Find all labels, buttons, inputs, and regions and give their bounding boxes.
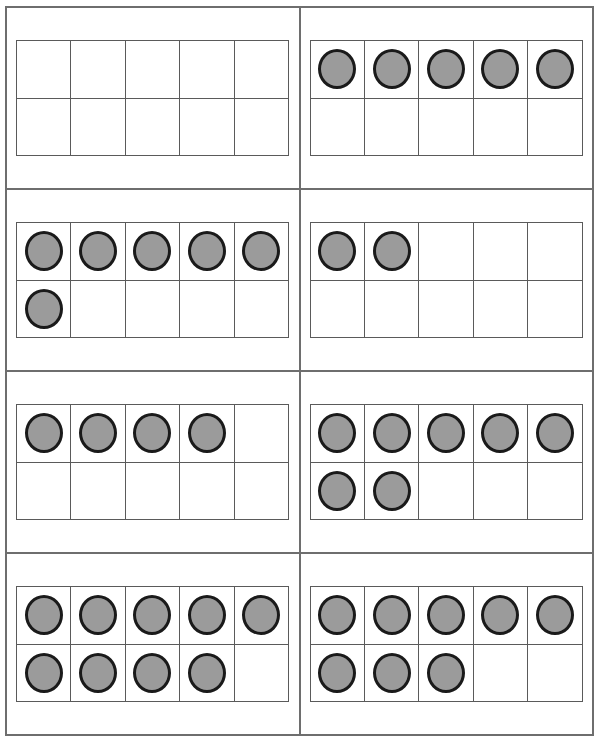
ten-frame-cell-filled[interactable] (126, 587, 180, 645)
ten-frame-panel[interactable] (7, 190, 301, 372)
ten-frame-cell-empty[interactable] (528, 99, 582, 157)
ten-frame-cell-filled[interactable] (126, 645, 180, 703)
counter-circle-icon (373, 471, 411, 511)
ten-frame-cell-filled[interactable] (126, 405, 180, 463)
ten-frame (16, 222, 289, 338)
ten-frame-cell-empty[interactable] (419, 223, 473, 281)
ten-frame-panel[interactable] (301, 372, 595, 554)
ten-frame-cell-filled[interactable] (311, 645, 365, 703)
ten-frame-cell-empty[interactable] (419, 99, 473, 157)
ten-frame-cell-filled[interactable] (17, 405, 71, 463)
ten-frame-cell-filled[interactable] (71, 223, 125, 281)
counter-circle-icon (481, 49, 519, 89)
ten-frame-cell-empty[interactable] (180, 463, 234, 521)
ten-frame-cell-filled[interactable] (180, 223, 234, 281)
ten-frame-cell-empty[interactable] (17, 41, 71, 99)
ten-frame-cell-empty[interactable] (126, 99, 180, 157)
ten-frame-cell-empty[interactable] (474, 281, 528, 339)
counter-circle-icon (79, 653, 117, 693)
ten-frame-cell-filled[interactable] (474, 587, 528, 645)
ten-frame-panel[interactable] (7, 372, 301, 554)
ten-frame-cell-filled[interactable] (419, 41, 473, 99)
ten-frame-cell-filled[interactable] (180, 645, 234, 703)
ten-frame-cell-filled[interactable] (365, 645, 419, 703)
ten-frame-cell-empty[interactable] (528, 645, 582, 703)
ten-frame-cell-filled[interactable] (474, 405, 528, 463)
ten-frame-cell-filled[interactable] (311, 223, 365, 281)
ten-frame-cell-empty[interactable] (180, 281, 234, 339)
ten-frame-panel[interactable] (301, 554, 595, 736)
ten-frame-cell-empty[interactable] (311, 99, 365, 157)
counter-circle-icon (25, 653, 63, 693)
ten-frame-cell-empty[interactable] (528, 281, 582, 339)
ten-frame-cell-empty[interactable] (126, 41, 180, 99)
ten-frame-cell-filled[interactable] (419, 405, 473, 463)
ten-frame-cell-filled[interactable] (311, 405, 365, 463)
ten-frame-cell-filled[interactable] (365, 405, 419, 463)
ten-frame-cell-filled[interactable] (311, 587, 365, 645)
ten-frame-cell-empty[interactable] (365, 99, 419, 157)
counter-circle-icon (427, 595, 465, 635)
ten-frame-cell-filled[interactable] (365, 587, 419, 645)
ten-frame-cell-empty[interactable] (180, 99, 234, 157)
ten-frame-cell-filled[interactable] (365, 41, 419, 99)
ten-frame-cell-filled[interactable] (365, 223, 419, 281)
ten-frame-cell-empty[interactable] (474, 223, 528, 281)
counter-circle-icon (133, 231, 171, 271)
ten-frame-cell-filled[interactable] (311, 463, 365, 521)
ten-frame-cell-filled[interactable] (419, 587, 473, 645)
counter-circle-icon (188, 653, 226, 693)
ten-frame-cell-empty[interactable] (17, 99, 71, 157)
ten-frame-cell-filled[interactable] (528, 405, 582, 463)
ten-frame-cell-filled[interactable] (235, 587, 289, 645)
ten-frame-panel[interactable] (301, 190, 595, 372)
ten-frame-cell-empty[interactable] (71, 41, 125, 99)
ten-frame-cell-filled[interactable] (419, 645, 473, 703)
ten-frame-cell-filled[interactable] (17, 223, 71, 281)
ten-frame-cell-filled[interactable] (71, 645, 125, 703)
ten-frame-cell-empty[interactable] (528, 223, 582, 281)
counter-circle-icon (25, 413, 63, 453)
ten-frame-cell-empty[interactable] (71, 99, 125, 157)
ten-frame-cell-empty[interactable] (235, 405, 289, 463)
ten-frame-cell-empty[interactable] (419, 463, 473, 521)
ten-frame-cell-empty[interactable] (528, 463, 582, 521)
ten-frame-cell-empty[interactable] (235, 463, 289, 521)
ten-frame-cell-filled[interactable] (365, 463, 419, 521)
ten-frame-cell-empty[interactable] (235, 41, 289, 99)
ten-frame-cell-empty[interactable] (17, 463, 71, 521)
ten-frame-cell-empty[interactable] (311, 281, 365, 339)
ten-frame-cell-filled[interactable] (528, 41, 582, 99)
ten-frame-cell-empty[interactable] (419, 281, 473, 339)
ten-frame-cell-empty[interactable] (180, 41, 234, 99)
ten-frame (16, 586, 289, 702)
ten-frame-cell-empty[interactable] (235, 99, 289, 157)
ten-frame-cell-empty[interactable] (126, 463, 180, 521)
ten-frame-cell-filled[interactable] (17, 587, 71, 645)
ten-frame-cell-empty[interactable] (126, 281, 180, 339)
ten-frame-cell-filled[interactable] (71, 405, 125, 463)
ten-frame-cell-filled[interactable] (311, 41, 365, 99)
counter-circle-icon (373, 49, 411, 89)
ten-frame-cell-filled[interactable] (474, 41, 528, 99)
ten-frame-cell-filled[interactable] (17, 281, 71, 339)
ten-frame-panel[interactable] (7, 8, 301, 190)
ten-frame-panel[interactable] (301, 8, 595, 190)
ten-frame-cell-filled[interactable] (235, 223, 289, 281)
ten-frame-cell-filled[interactable] (528, 587, 582, 645)
ten-frame-cell-empty[interactable] (474, 463, 528, 521)
ten-frame-cell-empty[interactable] (365, 281, 419, 339)
ten-frame-cell-empty[interactable] (235, 281, 289, 339)
ten-frame-cell-filled[interactable] (17, 645, 71, 703)
ten-frame-cell-empty[interactable] (71, 463, 125, 521)
ten-frame-cell-filled[interactable] (180, 587, 234, 645)
ten-frame-cell-empty[interactable] (474, 645, 528, 703)
ten-frame-cell-filled[interactable] (180, 405, 234, 463)
ten-frame (310, 586, 583, 702)
ten-frame-cell-filled[interactable] (126, 223, 180, 281)
ten-frame-panel[interactable] (7, 554, 301, 736)
ten-frame-cell-empty[interactable] (474, 99, 528, 157)
ten-frame-cell-empty[interactable] (235, 645, 289, 703)
ten-frame-cell-filled[interactable] (71, 587, 125, 645)
ten-frame-cell-empty[interactable] (71, 281, 125, 339)
